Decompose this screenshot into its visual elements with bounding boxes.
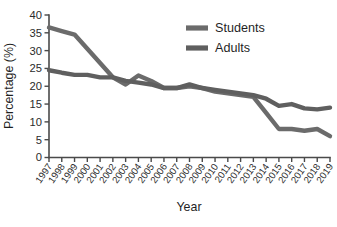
y-tick-label: 25 (30, 62, 42, 74)
line-chart: 0510152025303540 19971998199920002001200… (0, 0, 337, 227)
y-tick-label: 40 (30, 9, 42, 21)
x-axis-title: Year (176, 200, 201, 214)
data-series-group (49, 27, 330, 136)
chart-legend: StudentsAdults (186, 21, 265, 55)
legend-label-adults: Adults (215, 41, 250, 55)
y-tick-label: 30 (30, 45, 42, 57)
series-line-adults (49, 70, 330, 109)
y-axis-title: Percentage (%) (2, 43, 16, 129)
y-axis-tick-labels: 0510152025303540 (30, 9, 42, 164)
y-tick-label: 0 (36, 151, 42, 163)
y-tick-label: 35 (30, 27, 42, 39)
legend-label-students: Students (215, 21, 265, 35)
chart-canvas: 0510152025303540 19971998199920002001200… (0, 0, 337, 227)
y-tick-label: 10 (30, 116, 42, 128)
y-tick-label: 20 (30, 80, 42, 92)
x-axis-tick-labels: 1997199819992000200120022003200420052006… (33, 161, 335, 185)
y-tick-label: 5 (36, 134, 42, 146)
series-line-students (49, 27, 330, 136)
y-tick-label: 15 (30, 98, 42, 110)
